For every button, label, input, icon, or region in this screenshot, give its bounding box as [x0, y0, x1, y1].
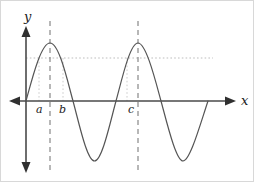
y-axis-bottom-arrowhead: [22, 162, 31, 173]
x-axis-left-arrowhead: [9, 97, 20, 106]
point-label-b: b: [59, 104, 66, 115]
y-axis-label: y: [24, 10, 31, 23]
x-axis-right-arrowhead: [225, 97, 236, 106]
y-axis-top-arrowhead: [22, 26, 31, 37]
sine-curve: [26, 43, 208, 161]
plot-canvas: [1, 1, 254, 182]
point-label-c: c: [128, 104, 134, 115]
sine-graph-figure: y x a b c: [0, 0, 254, 182]
x-axis-label: x: [241, 94, 248, 107]
point-label-a: a: [36, 104, 43, 115]
